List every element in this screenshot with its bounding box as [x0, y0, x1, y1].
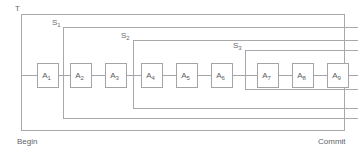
action-boxes: A1A2A3A4A5A6A7A8A9	[38, 64, 349, 88]
diagram-canvas: A1A2A3A4A5A6A7A8A9 TS1S2S3BeginCommit	[0, 0, 358, 159]
commit-label: Commit	[318, 137, 346, 146]
frame-label-s2: S2	[121, 31, 130, 41]
begin-label: Begin	[17, 137, 37, 146]
frame-label-t: T	[15, 4, 20, 13]
frame-label-s3: S3	[233, 41, 242, 51]
frame-label-s1: S1	[52, 18, 61, 28]
nested-transaction-diagram: A1A2A3A4A5A6A7A8A9 TS1S2S3BeginCommit	[0, 0, 358, 159]
